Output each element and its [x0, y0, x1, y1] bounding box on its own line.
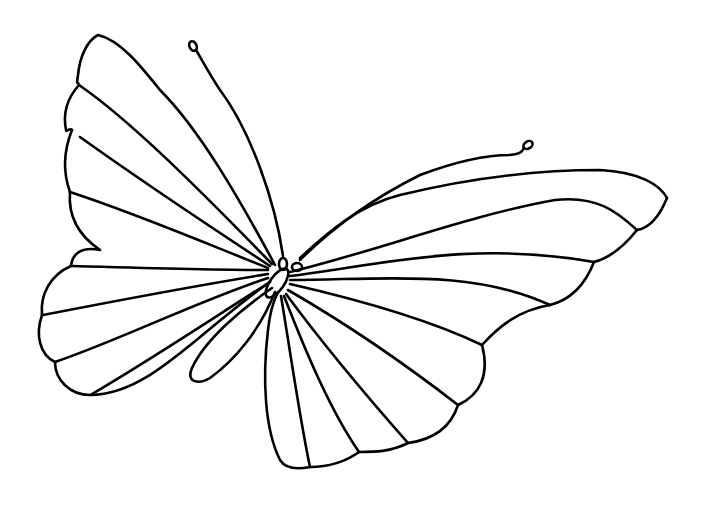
- butterfly-drawing: [0, 0, 711, 510]
